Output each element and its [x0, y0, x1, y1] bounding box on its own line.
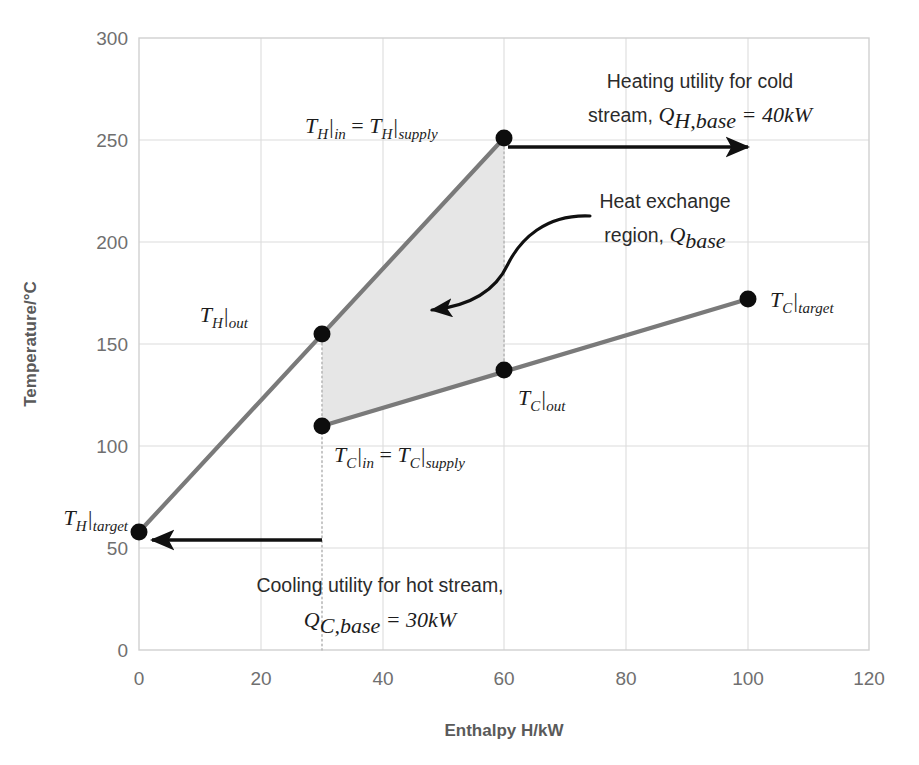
label-tc-in-mid: in — [362, 455, 374, 471]
label-tc-out-end: out — [546, 398, 566, 414]
cooling-utility-Q-subscript: C,base — [320, 613, 381, 638]
heat-exchange-Q-subscript: base — [685, 228, 726, 253]
marker-tc-out — [496, 362, 513, 379]
x-axis-title: Enthalpy H/kW — [444, 721, 564, 740]
heat-exchange-Q-symbol: Q — [669, 222, 685, 247]
label-th-target: TH|target — [64, 505, 129, 534]
label-tc-in-eq: = — [374, 442, 397, 467]
heating-utility-value: = 40kW — [736, 102, 814, 127]
chart-canvas: 300 250 200 150 100 50 0 0 20 40 60 80 1… — [0, 0, 919, 765]
heating-utility-label-line1: Heating utility for cold — [607, 70, 793, 92]
marker-tc-target — [740, 291, 757, 308]
heating-utility-Q-symbol: Q — [658, 102, 674, 127]
y-axis-title: Temperature/°C — [21, 281, 40, 407]
label-tc-in-end: supply — [426, 455, 466, 471]
label-th-target-end: target — [93, 518, 129, 534]
marker-th-in — [496, 130, 513, 147]
label-th-in-mid: in — [334, 126, 346, 142]
x-tick-40: 40 — [372, 668, 393, 689]
heating-utility-prefix: stream, — [588, 104, 658, 126]
y-tick-300: 300 — [96, 28, 128, 49]
x-axis-tick-labels: 0 20 40 60 80 100 120 — [134, 668, 885, 689]
heat-exchange-prefix: region, — [604, 224, 669, 246]
label-tc-target-end: target — [798, 300, 834, 316]
label-th-out-end: out — [229, 315, 249, 331]
x-tick-0: 0 — [134, 668, 145, 689]
y-tick-100: 100 — [96, 436, 128, 457]
heat-exchange-label-line1: Heat exchange — [599, 190, 730, 212]
x-tick-120: 120 — [853, 668, 885, 689]
marker-tc-in — [314, 418, 331, 435]
y-tick-250: 250 — [96, 130, 128, 151]
marker-th-target — [131, 524, 148, 541]
heating-utility-Q-subscript: H,base — [673, 108, 736, 133]
y-tick-200: 200 — [96, 232, 128, 253]
cooling-utility-Q-symbol: Q — [304, 607, 320, 632]
x-tick-80: 80 — [615, 668, 636, 689]
x-tick-60: 60 — [493, 668, 514, 689]
y-tick-150: 150 — [96, 334, 128, 355]
cooling-utility-label-line1: Cooling utility for hot stream, — [256, 574, 503, 596]
label-th-in-eq: = — [346, 113, 369, 138]
cooling-utility-value: = 30kW — [380, 607, 458, 632]
y-tick-50: 50 — [107, 538, 128, 559]
marker-th-out — [314, 326, 331, 343]
x-tick-20: 20 — [250, 668, 271, 689]
y-tick-0: 0 — [117, 640, 128, 661]
y-axis-tick-labels: 300 250 200 150 100 50 0 — [96, 28, 128, 661]
enthalpy-temperature-chart: 300 250 200 150 100 50 0 0 20 40 60 80 1… — [0, 0, 919, 765]
label-th-in-end: supply — [398, 126, 438, 142]
x-tick-100: 100 — [732, 668, 764, 689]
